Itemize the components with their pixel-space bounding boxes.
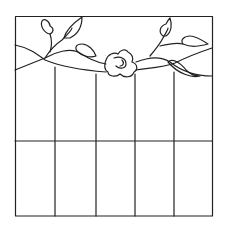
outer-frame [16,17,213,217]
vine [15,28,212,76]
rose [105,50,137,77]
stained-glass-pattern [0,0,227,225]
